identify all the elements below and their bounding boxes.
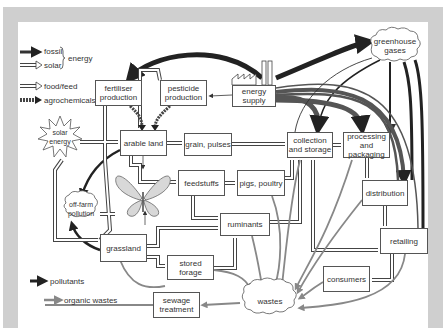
node-greenhouse-gases: greenhouse gases: [372, 37, 418, 55]
legend-agrochemicals: agrochemicals: [44, 96, 96, 105]
node-distribution: distribution: [362, 180, 408, 206]
node-ruminants: ruminants: [220, 213, 270, 236]
node-processing-packaging: processing and packaging: [343, 132, 390, 158]
node-grassland: grassland: [100, 234, 147, 262]
legend-food-feed: food/feed: [44, 82, 77, 91]
node-wastes: wastes: [252, 297, 288, 306]
node-sewage-treatment: sewage treatment: [153, 292, 200, 318]
agrochemical-flows: [130, 106, 170, 128]
legend-fossil: fossil: [44, 47, 62, 56]
node-energy-supply: energy supply: [232, 85, 276, 107]
legend-solar: solar: [44, 61, 61, 70]
node-retailing: retailing: [380, 228, 428, 254]
legend-energy: energy: [68, 54, 92, 63]
node-grain-pulses: grain, pulses: [184, 133, 232, 156]
node-solar-energy: solar energy: [44, 128, 76, 146]
node-off-farm-pollution: off-farm pollution: [64, 200, 98, 218]
node-consumers: consumers: [323, 266, 370, 292]
wastes-cloud: [242, 278, 296, 314]
node-collection-storage: collection and storage: [287, 132, 333, 158]
node-fertiliser-production: fertiliser production: [95, 80, 142, 106]
node-stored-forage: stored forage: [167, 255, 214, 280]
legend-pollutants: pollutants: [50, 277, 84, 286]
node-arable-land: arable land: [120, 130, 167, 156]
node-pigs-poultry: pigs, poultry: [237, 170, 285, 196]
node-pesticide-production: pesticide production: [160, 80, 207, 106]
node-feedstuffs: feedstuffs: [178, 170, 225, 196]
legend-organic-wastes: organic wastes: [64, 296, 117, 305]
